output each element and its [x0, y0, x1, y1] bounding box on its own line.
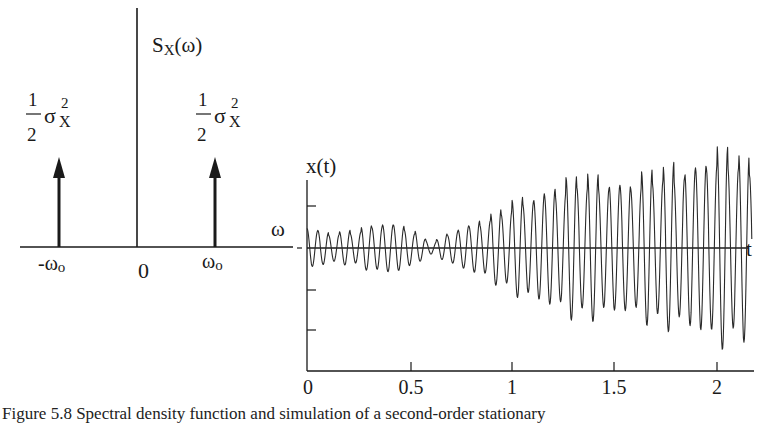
impulse-label-left: 1 2 σ 2 X — [26, 89, 71, 145]
svg-text:2: 2 — [712, 376, 722, 398]
tick-zero: 0 — [138, 258, 149, 283]
spectral-density-plot: SX(ω) ω -ωo 0 ωo 1 2 σ 2 X 1 2 σ 2 X — [20, 8, 293, 283]
tick-pos-omega0: ωo — [202, 250, 223, 273]
impulse-neg-omega0 — [53, 157, 65, 247]
time-series-plot: x(t) 0 0.5 1 1.5 2 t — [297, 147, 754, 398]
x-tick-labels: 0 0.5 1 1.5 2 — [303, 376, 722, 398]
svg-text:σ: σ — [214, 103, 226, 128]
svg-text:1: 1 — [28, 89, 38, 110]
svg-text:X: X — [59, 113, 71, 130]
svg-text:1: 1 — [507, 376, 517, 398]
xt-label: x(t) — [306, 154, 336, 178]
x-ticks — [411, 362, 717, 371]
tick-neg-omega0: -ωo — [38, 252, 65, 275]
arrowhead-icon — [209, 157, 221, 178]
impulse-label-right: 1 2 σ 2 X — [196, 89, 241, 145]
impulse-pos-omega0 — [209, 157, 221, 247]
sx-label: SX(ω) — [152, 33, 202, 58]
svg-text:1: 1 — [198, 89, 208, 110]
svg-text:0.5: 0.5 — [399, 376, 424, 398]
svg-text:X: X — [229, 113, 241, 130]
svg-text:2: 2 — [27, 124, 37, 145]
omega-axis-label: ω — [271, 217, 285, 241]
svg-text:2: 2 — [231, 95, 239, 111]
svg-text:2: 2 — [61, 95, 69, 111]
svg-text:0: 0 — [303, 376, 313, 398]
svg-text:1.5: 1.5 — [602, 376, 627, 398]
svg-text:σ: σ — [44, 103, 56, 128]
arrowhead-icon — [53, 157, 65, 178]
figure-caption: Figure 5.8 Spectral density function and… — [2, 404, 545, 424]
svg-text:2: 2 — [197, 124, 207, 145]
